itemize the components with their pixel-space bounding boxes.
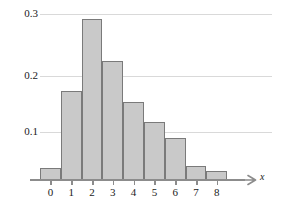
x-axis-tick-label: 8 [208, 187, 226, 198]
ytick-label-0.3: 0.3 [4, 8, 38, 19]
x-axis-tick [50, 180, 52, 185]
histogram-bar [61, 91, 82, 180]
x-axis-tick [134, 180, 136, 185]
x-axis-tick [175, 180, 177, 185]
gridline-0.2 [40, 76, 272, 77]
x-axis-tick-label: 7 [187, 187, 205, 198]
histogram-bar [186, 166, 207, 181]
histogram-bar [144, 122, 165, 180]
histogram-bar [82, 19, 103, 180]
x-axis-tick-label: 0 [41, 187, 59, 198]
x-axis-tick [196, 180, 198, 185]
axis-arrow-icon [243, 174, 257, 186]
histogram-bar [102, 61, 123, 180]
x-axis-tick-label: 3 [104, 187, 122, 198]
x-axis-line [30, 179, 245, 181]
histogram-bar [123, 102, 144, 180]
x-axis-tick-label: 1 [62, 187, 80, 198]
histogram-figure: 0.3 0.2 0.1 x 012345678 [0, 0, 297, 216]
gridline-0.3 [40, 14, 272, 15]
x-axis-title: x [260, 172, 264, 182]
x-axis-tick-label: 6 [166, 187, 184, 198]
x-axis-tick [217, 180, 219, 185]
x-axis-tick [92, 180, 94, 185]
x-axis-tick-label: 5 [145, 187, 163, 198]
histogram-bar [165, 138, 186, 180]
x-axis-tick [71, 180, 73, 185]
plot-area: 0.3 0.2 0.1 x 012345678 [0, 0, 297, 216]
x-axis-tick [113, 180, 115, 185]
x-axis-tick-label: 2 [83, 187, 101, 198]
ytick-label-0.2: 0.2 [4, 70, 38, 81]
ytick-label-0.1: 0.1 [4, 126, 38, 137]
x-axis-tick-label: 4 [125, 187, 143, 198]
x-axis-tick [154, 180, 156, 185]
